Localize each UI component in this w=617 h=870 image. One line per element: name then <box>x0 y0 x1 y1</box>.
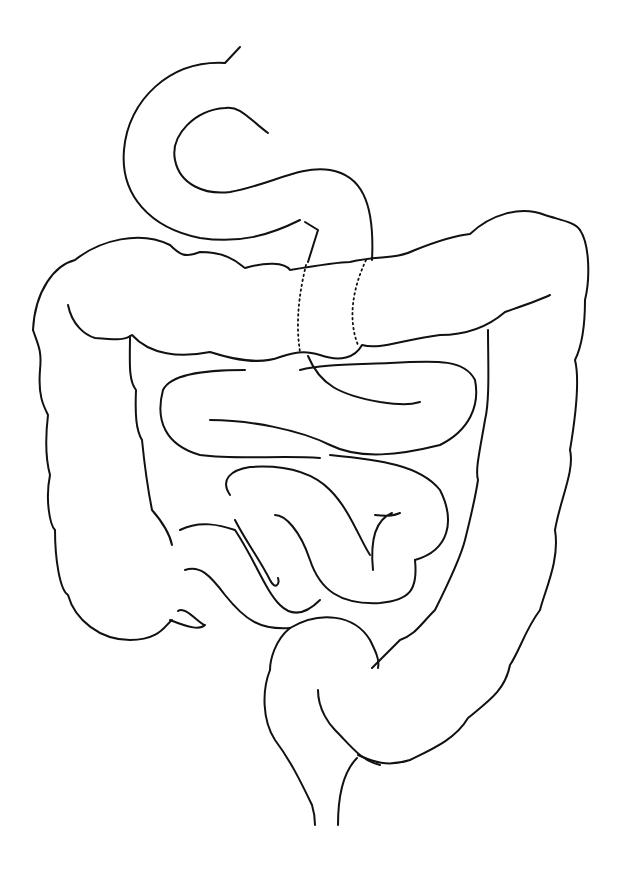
small-intestine <box>160 356 476 628</box>
intestines-illustration <box>0 0 617 870</box>
transverse-colon <box>33 211 580 361</box>
sigmoid-colon <box>265 617 380 825</box>
duodenum <box>124 47 373 262</box>
intestines-drawing <box>0 0 617 870</box>
descending-colon <box>358 230 588 763</box>
